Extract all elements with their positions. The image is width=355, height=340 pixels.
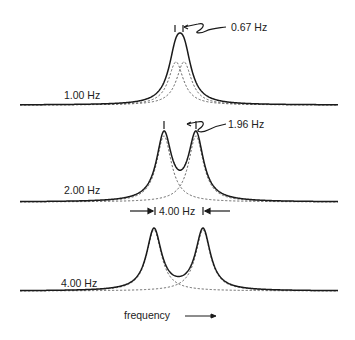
panel-1-peak-markers: [175, 24, 226, 33]
x-axis-label: frequency: [124, 310, 170, 321]
panel-1-coupling-label: 1.00 Hz: [64, 90, 100, 101]
panel-1-splitting-label: 0.67 Hz: [231, 22, 267, 33]
frequency-arrow-icon: [185, 314, 216, 318]
spectra-diagram: [0, 0, 355, 340]
panel-3-coupling-label: 4.00 Hz: [61, 278, 97, 289]
panel-3-splitting-label: 4.00 Hz: [159, 206, 195, 217]
panel-2-coupling-label: 2.00 Hz: [64, 185, 100, 196]
panel-2-splitting-label: 1.96 Hz: [228, 119, 264, 130]
panel-2-peak-markers: [164, 121, 226, 132]
